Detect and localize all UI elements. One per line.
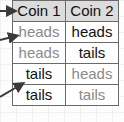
arrows-overlay (0, 0, 124, 122)
arrow-to-row-1-icon (0, 36, 16, 40)
arrow-to-row-3-icon (0, 84, 22, 97)
